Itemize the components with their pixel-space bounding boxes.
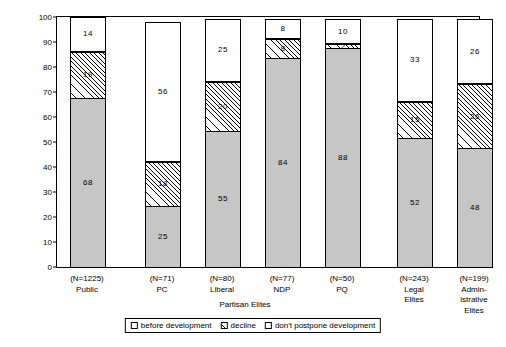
- y-axis-tick-label: 10: [23, 238, 57, 247]
- y-axis-tick-label: 60: [23, 113, 57, 122]
- bar-value-label: 48: [470, 204, 480, 212]
- bar-column[interactable]: 8488: [265, 17, 301, 267]
- bar-column[interactable]: 681914: [70, 17, 106, 267]
- bar-segment[interactable]: 15: [397, 102, 433, 140]
- y-axis-tick-label: 80: [23, 63, 57, 72]
- bar-segment[interactable]: 26: [457, 84, 493, 149]
- bar-value-label: 84: [278, 159, 288, 167]
- x-axis-category-name: Public: [45, 285, 129, 296]
- legend-swatch-icon: [221, 322, 228, 329]
- legend-item[interactable]: decline: [221, 321, 256, 330]
- bar-stack: 552025: [205, 19, 241, 267]
- y-axis-tick-label: 70: [23, 88, 57, 97]
- bar-column[interactable]: 552025: [205, 17, 241, 267]
- bar-segment[interactable]: 25: [145, 206, 181, 269]
- y-axis-tick-label: 30: [23, 188, 57, 197]
- bar-value-label: 55: [218, 195, 228, 203]
- plot-area: Percentage 0102030405060708090100 681914…: [56, 16, 480, 268]
- bar-segment[interactable]: 48: [457, 148, 493, 268]
- bar-segment[interactable]: 56: [145, 22, 181, 162]
- bar-stack: 8488: [265, 19, 301, 267]
- bar-stack: 681914: [70, 17, 106, 268]
- y-axis-tick-label: 100: [23, 13, 57, 22]
- x-axis-title-text: Partisan Elites: [219, 300, 270, 309]
- legend-label: before development: [141, 321, 212, 330]
- bar-value-label: 19: [83, 71, 93, 79]
- x-axis-title: Partisan Elites: [0, 300, 506, 309]
- bar-value-label: 20: [218, 103, 228, 111]
- bar-segment[interactable]: 84: [265, 58, 301, 268]
- bar-value-label: 25: [218, 46, 228, 54]
- bar-stack: 251856: [145, 22, 181, 268]
- bar-value-label: 88: [338, 154, 348, 162]
- bar-segment[interactable]: 55: [205, 131, 241, 269]
- bar-segment[interactable]: 68: [70, 98, 106, 268]
- y-axis-tick-label: 50: [23, 138, 57, 147]
- chart-root: Percentage 0102030405060708090100 681914…: [0, 0, 506, 347]
- bar-column[interactable]: 88210: [325, 17, 361, 267]
- x-axis-category-name: Admin-: [432, 285, 506, 296]
- bar-value-label: 14: [83, 30, 93, 38]
- bar-value-label: 26: [470, 113, 480, 121]
- bar-column[interactable]: 482626: [457, 17, 493, 267]
- bar-value-label: 68: [83, 179, 93, 187]
- x-axis-sample-size: (N=199): [432, 274, 506, 285]
- y-axis-tick-label: 90: [23, 38, 57, 47]
- bar-column[interactable]: 251856: [145, 17, 181, 267]
- bar-value-label: 8: [281, 25, 286, 33]
- x-axis-category-label: (N=199)Admin-istrativeElites: [432, 274, 506, 316]
- y-axis-tick-label: 40: [23, 163, 57, 172]
- bar-segment[interactable]: 25: [205, 19, 241, 82]
- bar-stack: 88210: [325, 19, 361, 267]
- bar-segment[interactable]: 14: [70, 17, 106, 52]
- x-axis-sample-size: (N=1225): [45, 274, 129, 285]
- legend-item[interactable]: before development: [131, 321, 212, 330]
- bar-value-label: 2: [341, 44, 346, 49]
- bar-segment[interactable]: 10: [325, 19, 361, 44]
- bar-series-container: 681914251856552025848888210521533482626: [57, 17, 479, 267]
- bar-value-label: 25: [158, 233, 168, 241]
- bar-segment[interactable]: 20: [205, 82, 241, 132]
- legend-swatch-icon: [265, 322, 272, 329]
- bar-column[interactable]: 521533: [397, 17, 433, 267]
- bar-value-label: 52: [410, 199, 420, 207]
- bar-segment[interactable]: 19: [70, 52, 106, 100]
- bar-value-label: 8: [281, 45, 286, 53]
- y-axis-tick-label: 20: [23, 213, 57, 222]
- bar-value-label: 56: [158, 88, 168, 96]
- legend-swatch-icon: [131, 322, 138, 329]
- chart-legend: before developmentdeclinedon't postpone …: [125, 318, 381, 333]
- legend-label: decline: [231, 321, 256, 330]
- bar-value-label: 15: [410, 116, 420, 124]
- y-axis-tick-label: 0: [23, 263, 57, 272]
- bar-value-label: 18: [158, 180, 168, 188]
- bar-segment[interactable]: 18: [145, 162, 181, 207]
- bar-segment[interactable]: 8: [265, 39, 301, 59]
- x-axis-category-label: (N=1225)Public: [45, 274, 129, 295]
- bar-segment[interactable]: 26: [457, 19, 493, 84]
- legend-label: don't postpone development: [275, 321, 375, 330]
- bar-stack: 482626: [457, 19, 493, 267]
- bar-segment[interactable]: 33: [397, 19, 433, 102]
- bar-stack: 521533: [397, 19, 433, 267]
- bar-value-label: 10: [338, 28, 348, 36]
- bar-segment[interactable]: 52: [397, 138, 433, 268]
- bar-segment[interactable]: 88: [325, 48, 361, 268]
- bar-segment[interactable]: 2: [325, 44, 361, 49]
- bar-value-label: 26: [470, 48, 480, 56]
- bar-segment[interactable]: 8: [265, 19, 301, 39]
- legend-item[interactable]: don't postpone development: [265, 321, 375, 330]
- bar-value-label: 33: [410, 56, 420, 64]
